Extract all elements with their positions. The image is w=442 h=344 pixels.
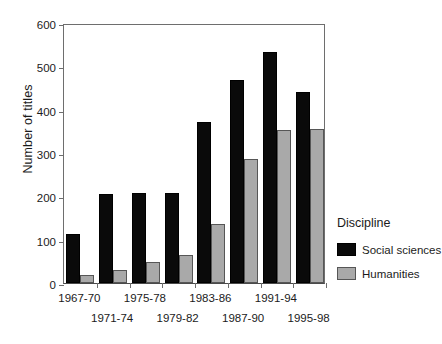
legend-entry-social-sciences[interactable]: Social sciences bbox=[337, 243, 441, 256]
legend-swatch-icon bbox=[337, 267, 356, 280]
bar-humanities-1975-78 bbox=[146, 262, 160, 283]
legend-entry-humanities[interactable]: Humanities bbox=[337, 267, 441, 280]
plot-area: 0100200300400500600 bbox=[63, 24, 325, 284]
legend-entries: Social sciencesHumanities bbox=[337, 243, 441, 280]
x-tick-mark bbox=[293, 283, 294, 288]
bar-humanities-1979-82 bbox=[179, 255, 193, 283]
x-tick-label-1967-70: 1967-70 bbox=[58, 292, 100, 304]
bar-humanities-1983-86 bbox=[211, 224, 225, 283]
y-tick-label: 500 bbox=[37, 62, 56, 74]
x-tick-label-1991-94: 1991-94 bbox=[255, 292, 297, 304]
bar-humanities-1967-70 bbox=[80, 275, 94, 283]
bar-social-sciences-1987-90 bbox=[230, 80, 244, 283]
y-tick-label: 600 bbox=[37, 19, 56, 31]
bar-social-sciences-1975-78 bbox=[132, 193, 146, 283]
x-tick-mark bbox=[228, 283, 229, 288]
bars-layer bbox=[64, 25, 324, 283]
y-tick-label: 0 bbox=[50, 279, 56, 291]
bar-humanities-1971-74 bbox=[113, 270, 127, 283]
bar-humanities-1995-98 bbox=[310, 129, 324, 283]
bar-social-sciences-1971-74 bbox=[99, 194, 113, 283]
x-tick-mark bbox=[326, 283, 327, 288]
x-tick-mark bbox=[97, 283, 98, 288]
bar-social-sciences-1995-98 bbox=[296, 92, 310, 283]
bar-social-sciences-1991-94 bbox=[263, 52, 277, 283]
x-tick-label-1971-74: 1971-74 bbox=[91, 312, 133, 324]
legend-entry-label: Social sciences bbox=[362, 244, 441, 256]
bar-chart-figure: Number of titles 0100200300400500600 196… bbox=[0, 0, 442, 344]
y-tick-label: 200 bbox=[37, 192, 56, 204]
bar-social-sciences-1983-86 bbox=[197, 122, 211, 283]
bar-humanities-1991-94 bbox=[277, 130, 291, 283]
x-tick-label-1975-78: 1975-78 bbox=[124, 292, 166, 304]
x-tick-mark bbox=[261, 283, 262, 288]
y-tick-label: 300 bbox=[37, 149, 56, 161]
x-tick-label-1995-98: 1995-98 bbox=[288, 312, 330, 324]
x-tick-mark bbox=[130, 283, 131, 288]
y-tick-label: 400 bbox=[37, 106, 56, 118]
legend-swatch-icon bbox=[337, 243, 356, 256]
x-tick-mark bbox=[195, 283, 196, 288]
bar-social-sciences-1979-82 bbox=[165, 193, 179, 283]
bar-humanities-1987-90 bbox=[244, 159, 258, 283]
x-tick-label-1983-86: 1983-86 bbox=[189, 292, 231, 304]
y-tick-label: 100 bbox=[37, 236, 56, 248]
x-tick-label-1987-90: 1987-90 bbox=[222, 312, 264, 324]
legend: Discipline Social sciencesHumanities bbox=[337, 216, 441, 291]
bar-social-sciences-1967-70 bbox=[66, 234, 80, 283]
x-tick-label-1979-82: 1979-82 bbox=[157, 312, 199, 324]
x-tick-mark bbox=[162, 283, 163, 288]
y-axis-title: Number of titles bbox=[21, 39, 35, 219]
y-tick-mark bbox=[59, 285, 64, 286]
legend-entry-label: Humanities bbox=[362, 268, 420, 280]
legend-title: Discipline bbox=[337, 216, 441, 230]
